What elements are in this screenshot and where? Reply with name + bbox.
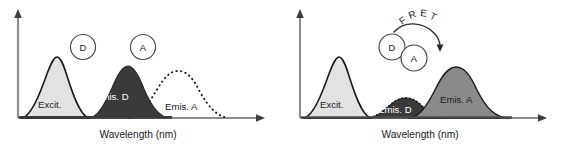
curve-emission-acceptor — [408, 67, 510, 118]
x-axis-arrowhead — [538, 114, 547, 122]
molecule-acceptor: A — [401, 45, 427, 71]
label-emission-acceptor: Emis. A — [440, 94, 473, 105]
x-axis-label: Wavelength (nm) — [381, 129, 458, 140]
donor-letter: D — [80, 42, 87, 53]
panel-with-fret: Excit. Emis. D Emis. A F R E T FRET D A — [282, 0, 564, 148]
fret-arrowhead — [437, 44, 444, 52]
fret-letter-r: R — [407, 8, 417, 21]
x-axis-arrowhead — [256, 114, 265, 122]
label-excitation: Excit. — [320, 99, 343, 110]
fret-letter-t: T — [428, 10, 438, 23]
label-excitation: Excit. — [38, 99, 61, 110]
fret-label: F R E T FRET — [282, 0, 439, 27]
acceptor-letter: A — [140, 42, 147, 53]
molecule-acceptor: A — [131, 35, 156, 60]
fret-letter-e: E — [420, 7, 428, 19]
y-axis-arrowhead — [296, 9, 304, 18]
panel-no-fret: Excit. Emis. D Emis. A D A Wavelength (n… — [0, 0, 282, 148]
y-axis-arrowhead — [14, 9, 22, 18]
label-emission-acceptor: Emis. A — [165, 101, 198, 112]
x-axis-label: Wavelength (nm) — [99, 129, 176, 140]
donor-letter: D — [389, 42, 396, 53]
label-emission-donor: Emis. D — [95, 91, 129, 102]
fret-figure: Excit. Emis. D Emis. A D A Wavelength (n… — [0, 0, 564, 148]
label-emission-donor: Emis. D — [378, 104, 412, 115]
acceptor-letter: A — [411, 53, 418, 64]
molecule-donor: D — [71, 35, 96, 60]
